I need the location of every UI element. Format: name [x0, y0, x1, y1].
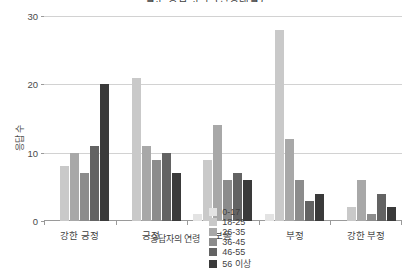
legend-item[interactable]: 26-35	[209, 227, 245, 237]
y-tick-label: 10	[27, 147, 38, 158]
legend-swatch	[209, 260, 217, 268]
plot-area: 0102030 강한 긍정긍정보통부정강한 부정	[44, 16, 402, 221]
bar-chart: 설문 응답 분포 (연령대별) 응답 수 0102030 강한 긍정긍정보통부정…	[0, 0, 408, 276]
legend-item-label: 56 이상	[222, 257, 251, 270]
legend-swatch	[209, 208, 217, 216]
legend: 응답자의 연령 0-1718-2526-3536-4546-5556 이상	[0, 207, 408, 270]
legend-swatch	[209, 248, 217, 256]
legend-swatch	[209, 218, 217, 226]
legend-title: 응답자의 연령	[150, 232, 201, 245]
bar-group: 긍정	[116, 16, 188, 221]
legend-item-label: 46-55	[222, 247, 245, 257]
bar[interactable]	[100, 84, 109, 221]
legend-item[interactable]: 56 이상	[209, 257, 258, 270]
bar-group: 강한 긍정	[44, 16, 116, 221]
legend-item[interactable]: 18-25	[209, 217, 245, 227]
bar-groups: 강한 긍정긍정보통부정강한 부정	[44, 16, 402, 221]
legend-item-label: 26-35	[222, 227, 245, 237]
chart-title: 설문 응답 분포 (연령대별)	[0, 0, 408, 2]
bar[interactable]	[275, 30, 284, 221]
legend-item[interactable]: 36-45	[209, 237, 245, 247]
legend-swatch	[209, 238, 217, 246]
legend-item-label: 0-17	[222, 207, 240, 217]
legend-item[interactable]: 0-17	[209, 207, 245, 217]
legend-item-label: 36-45	[222, 237, 245, 247]
bar[interactable]	[132, 78, 141, 222]
y-tick-label: 20	[27, 79, 38, 90]
y-axis-title: 응답 수	[13, 125, 26, 152]
bar-group: 강한 부정	[330, 16, 402, 221]
y-tick-label: 30	[27, 11, 38, 22]
legend-item-label: 18-25	[222, 217, 245, 227]
legend-swatch	[209, 228, 217, 236]
legend-items: 0-1718-2526-3536-4546-5556 이상	[209, 207, 258, 270]
legend-item[interactable]: 46-55	[209, 247, 245, 257]
bar-group: 보통	[187, 16, 259, 221]
bar-group: 부정	[259, 16, 331, 221]
